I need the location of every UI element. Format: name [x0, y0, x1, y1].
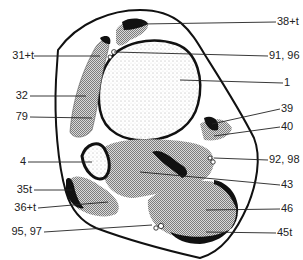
label-45t: 45t	[277, 227, 292, 238]
label-32: 32	[6, 90, 28, 101]
label-1: 1	[284, 77, 290, 88]
label-4: 4	[6, 156, 26, 167]
label-92-98: 92, 98	[269, 154, 300, 165]
label-39: 39	[281, 103, 293, 114]
bone-1	[99, 41, 200, 141]
label-38t: 38+t	[277, 16, 299, 27]
vessel-97	[158, 223, 163, 228]
label-40: 40	[281, 121, 293, 132]
label-79: 79	[6, 111, 28, 122]
vessel-96	[108, 55, 112, 59]
label-35t: 35t	[6, 184, 32, 195]
label-36t: 36+t	[4, 202, 36, 213]
label-91-96: 91, 96	[269, 50, 300, 61]
label-95-97: 95, 97	[2, 226, 42, 237]
label-46: 46	[281, 203, 293, 214]
vessel-92	[208, 156, 212, 160]
cross-section-figure	[0, 0, 303, 260]
vessel-98	[211, 160, 215, 164]
label-31t: 31+t	[6, 50, 34, 61]
label-43: 43	[281, 179, 293, 190]
vessel-95	[154, 226, 158, 230]
